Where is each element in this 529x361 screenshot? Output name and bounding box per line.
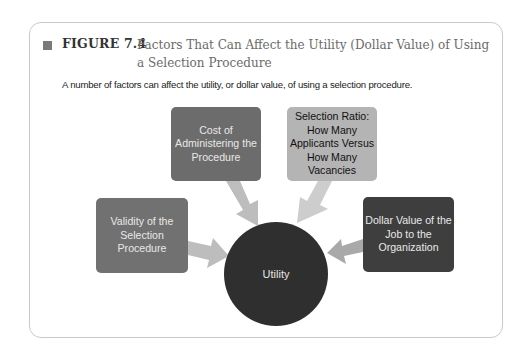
- factor-selection-ratio-label: Selection Ratio: How Many Applicants Ver…: [289, 110, 375, 178]
- factor-cost-label: Cost of Administering the Procedure: [173, 124, 259, 165]
- factor-validity-label: Validity of the Selection Procedure: [98, 215, 186, 256]
- arrow-cost-to-utility: [226, 181, 258, 226]
- factor-validity-box: Validity of the Selection Procedure: [96, 198, 188, 273]
- arrow-dollar-to-utility: [327, 239, 363, 264]
- arrow-validity-to-utility: [188, 238, 229, 268]
- factor-cost-box: Cost of Administering the Procedure: [171, 107, 261, 181]
- arrow-ratio-to-utility: [297, 181, 332, 223]
- factor-dollar-value-label: Dollar Value of the Job to the Organizat…: [365, 214, 452, 255]
- factor-selection-ratio-box: Selection Ratio: How Many Applicants Ver…: [287, 107, 377, 181]
- factor-dollar-value-box: Dollar Value of the Job to the Organizat…: [363, 197, 454, 272]
- utility-label: Utility: [263, 268, 290, 280]
- utility-circle: Utility: [224, 222, 328, 326]
